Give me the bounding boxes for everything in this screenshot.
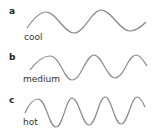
panel-b-letter: b xyxy=(9,52,15,62)
panel-a-label: cool xyxy=(24,32,42,42)
wave-cool xyxy=(27,10,146,33)
wave-hot xyxy=(25,97,145,127)
panel-c-letter: c xyxy=(9,95,14,105)
panel-c-label: hot xyxy=(23,117,38,127)
panel-a-letter: a xyxy=(9,6,15,16)
panel-b-label: medium xyxy=(23,74,60,84)
